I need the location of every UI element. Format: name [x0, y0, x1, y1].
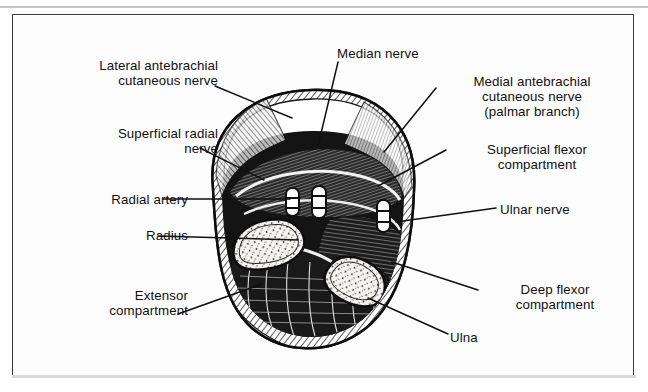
radial-artery-bundle	[286, 188, 299, 216]
label-ulna: Ulna	[450, 330, 540, 345]
label-medial-antebrachial-cutaneous-nerve: Medial antebrachial cutaneous nerve (pal…	[437, 74, 627, 120]
leader-deep-flexor-compartment	[392, 262, 478, 290]
label-extensor-compartment: Extensor compartment	[28, 288, 188, 318]
ulnar-nerve-bundle	[377, 200, 390, 232]
label-median-nerve: Median nerve	[337, 46, 477, 61]
leader-ulna	[368, 298, 448, 334]
label-deep-flexor-compartment: Deep flexor compartment	[480, 282, 630, 312]
median-nerve-bundle	[312, 186, 326, 218]
forearm-cross-section-illustration	[212, 90, 414, 358]
label-lateral-antebrachial-cutaneous-nerve: Lateral antebrachial cutaneous nerve	[28, 58, 218, 88]
label-ulnar-nerve: Ulnar nerve	[500, 202, 640, 217]
label-superficial-flexor-compartment: Superficial flexor compartment	[447, 142, 627, 172]
label-radius: Radius	[28, 228, 188, 243]
label-radial-artery: Radial artery	[28, 192, 188, 207]
label-superficial-radial-nerve: Superficial radial nerve	[28, 126, 218, 156]
